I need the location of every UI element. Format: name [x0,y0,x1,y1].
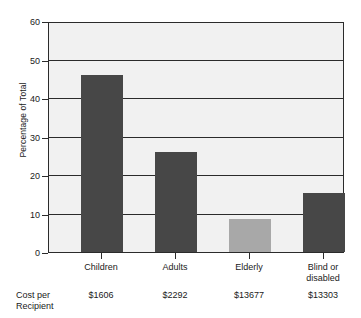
x-tick-mark-adults [175,253,176,259]
x-tick-mark-children [101,253,102,259]
bar-elderly [229,219,271,252]
cost-row-label-line2: Recipient [16,301,54,312]
bar-blind-or-disabled [303,193,345,252]
x-axis-label-blind-or-disabled-line2: disabled [278,273,361,284]
bar-adults [155,152,197,252]
x-axis-label-blind-or-disabled-line1: Blind or [278,262,361,273]
x-axis-label-blind-or-disabled: Blind or disabled [278,262,361,284]
gridline-50 [49,60,343,61]
cost-row-label: Cost per Recipient [16,290,54,312]
y-axis-title: Percentage of Total [18,50,28,190]
y-tick-label-60: 60 [0,17,40,27]
x-tick-mark-elderly [249,253,250,259]
y-tick-label-10: 10 [0,210,40,220]
plot-area [48,22,344,253]
y-tick-mark-0 [42,253,48,254]
bar-children [81,75,123,253]
cost-row-label-line1: Cost per [16,290,54,301]
y-tick-label-30: 30 [0,133,40,143]
y-tick-label-40: 40 [0,94,40,104]
y-tick-label-50: 50 [0,56,40,66]
y-tick-label-20: 20 [0,171,40,181]
bar-chart-figure: Percentage of Total 60 50 40 30 20 10 0 … [0,0,361,318]
x-tick-mark-blind-or-disabled [323,253,324,259]
cost-value-blind-or-disabled: $13303 [278,290,361,300]
y-tick-label-0: 0 [0,248,40,258]
